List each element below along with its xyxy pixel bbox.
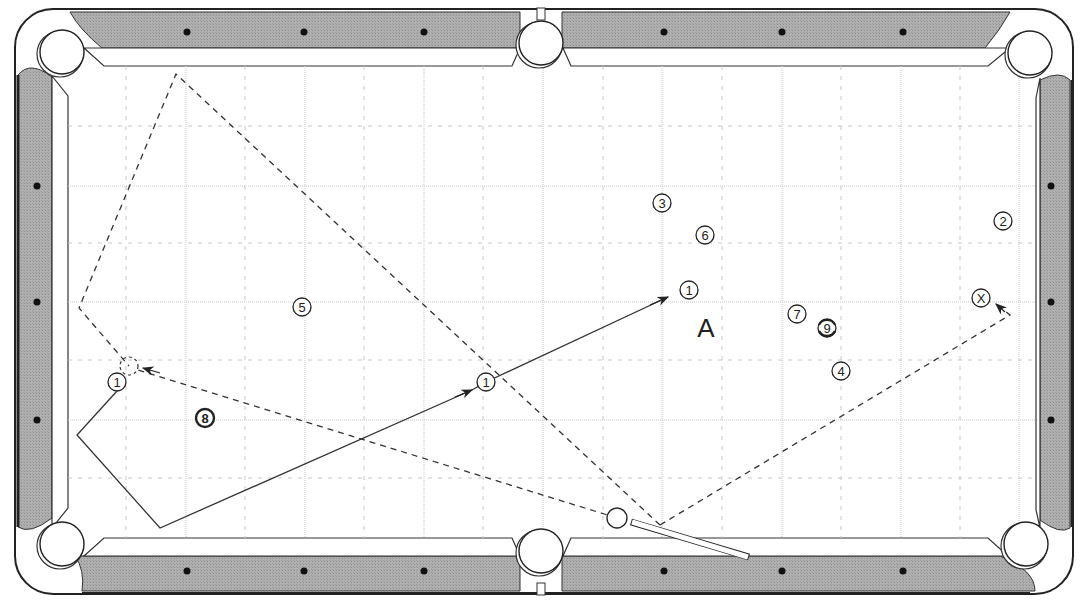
ball-9: 9 <box>818 319 836 337</box>
rail-top-right <box>562 12 1010 48</box>
ball-number: 1 <box>113 375 120 390</box>
diamond-marker <box>301 568 308 575</box>
diamond-marker <box>184 568 191 575</box>
ball-number: 1 <box>685 283 692 298</box>
ball-4: 4 <box>832 362 850 380</box>
position-label-a: A <box>697 313 715 343</box>
rail-left <box>18 68 52 530</box>
ball-1: 1 <box>680 281 698 299</box>
ball-1: 1 <box>477 373 495 391</box>
pool-table: 36215794118X A <box>0 0 1080 603</box>
pocket-top-left <box>37 30 84 77</box>
rail-bottom-right <box>562 556 1035 591</box>
diamond-marker <box>661 568 668 575</box>
diamond-marker <box>421 29 428 36</box>
diamond-marker <box>779 29 786 36</box>
ball-number: 6 <box>701 228 708 243</box>
ball-1: 1 <box>108 373 126 391</box>
ball-3: 3 <box>653 194 671 212</box>
diamond-marker <box>779 568 786 575</box>
diamond-marker <box>34 299 41 306</box>
ball-6: 6 <box>696 226 714 244</box>
ball-number: 4 <box>837 364 844 379</box>
diamond-marker <box>1048 417 1055 424</box>
cue-ball <box>607 508 627 528</box>
diamond-marker <box>34 417 41 424</box>
ball-number: 9 <box>823 321 830 336</box>
pocket-bottom-left <box>37 522 84 569</box>
pocket-top-right <box>1005 31 1052 78</box>
pool-diagram: 36215794118X A <box>0 0 1080 603</box>
ball-5: 5 <box>293 298 311 316</box>
rail-top-left <box>70 12 520 48</box>
diamond-marker <box>34 183 41 190</box>
diamond-marker <box>1048 299 1055 306</box>
pocket-bottom-right <box>1001 522 1048 569</box>
diamond-marker <box>184 29 191 36</box>
ball-number: 3 <box>658 196 665 211</box>
diamond-marker <box>900 29 907 36</box>
diamond-marker <box>301 29 308 36</box>
rail-bottom-left <box>75 556 520 591</box>
diamond-marker <box>661 29 668 36</box>
diamond-marker <box>900 568 907 575</box>
ball-number: 8 <box>201 411 208 426</box>
ball-2: 2 <box>994 212 1012 230</box>
ball-x: X <box>972 289 990 307</box>
ball-number: 2 <box>999 214 1006 229</box>
ball-number: 7 <box>793 307 800 322</box>
ball-number: X <box>977 291 986 306</box>
ball-number: 5 <box>298 300 305 315</box>
ball-number: 1 <box>482 375 489 390</box>
diamond-marker <box>421 568 428 575</box>
ball-7: 7 <box>788 305 806 323</box>
diamond-marker <box>1048 183 1055 190</box>
rail-right <box>1040 75 1070 530</box>
ball-8: 8 <box>196 409 214 427</box>
